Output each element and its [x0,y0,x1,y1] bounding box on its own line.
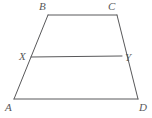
vertex-label-b: B [39,1,46,12]
vertex-label-c: C [108,1,115,12]
vertex-label-y: Y [125,52,131,63]
vertex-label-a: A [5,102,12,113]
geometry-figure: B C X Y A D [0,0,152,118]
segment-xy [31,56,122,57]
vertex-label-x: X [19,51,26,62]
vertex-label-d: D [139,102,147,113]
midsegment-group [31,56,122,57]
